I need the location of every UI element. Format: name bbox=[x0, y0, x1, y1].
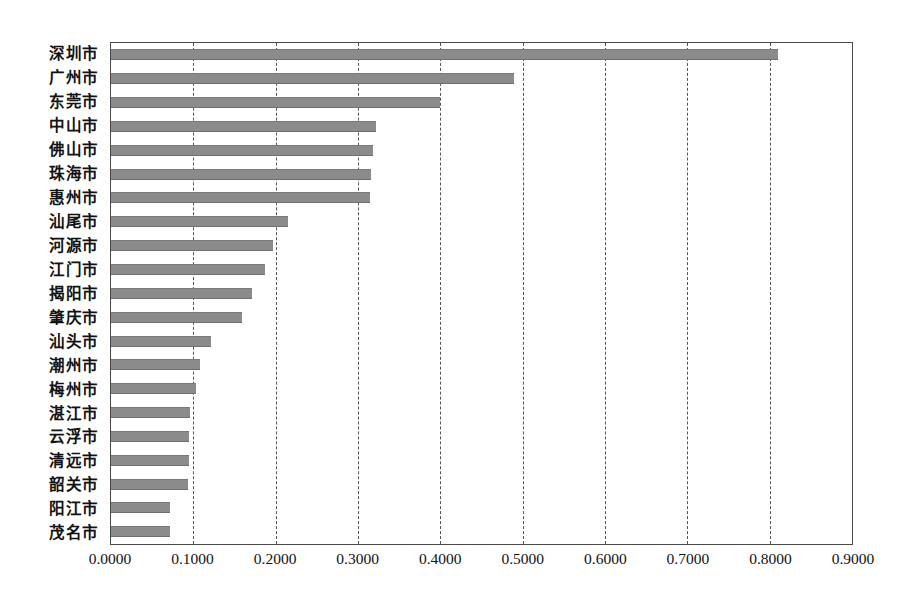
bar-row bbox=[111, 383, 852, 394]
bar-chart: 深圳市广州市东莞市中山市佛山市珠海市惠州市汕尾市河源市江门市揭阳市肇庆市汕头市潮… bbox=[0, 0, 906, 607]
bar[interactable] bbox=[111, 431, 189, 442]
value-tick-label: 0.4000 bbox=[419, 548, 462, 570]
plot-area bbox=[110, 42, 853, 545]
category-label: 中山市 bbox=[49, 117, 98, 134]
category-label: 河源市 bbox=[49, 237, 98, 254]
category-label: 湛江市 bbox=[49, 405, 98, 422]
bar-row bbox=[111, 97, 852, 108]
bar[interactable] bbox=[111, 383, 196, 394]
bar-row bbox=[111, 169, 852, 180]
bar[interactable] bbox=[111, 240, 273, 251]
value-tick-label: 0.3000 bbox=[336, 548, 379, 570]
bar[interactable] bbox=[111, 169, 371, 180]
bar[interactable] bbox=[111, 145, 373, 156]
bar[interactable] bbox=[111, 359, 200, 370]
category-label: 潮州市 bbox=[49, 357, 98, 374]
bar-row bbox=[111, 121, 852, 132]
bar-row bbox=[111, 502, 852, 513]
category-label: 阳江市 bbox=[49, 500, 98, 517]
bar-row bbox=[111, 49, 852, 60]
value-tick-label: 0.5000 bbox=[501, 548, 544, 570]
bar-row bbox=[111, 264, 852, 275]
category-label: 汕头市 bbox=[49, 333, 98, 350]
category-axis: 深圳市广州市东莞市中山市佛山市珠海市惠州市汕尾市河源市江门市揭阳市肇庆市汕头市潮… bbox=[0, 42, 104, 545]
bar[interactable] bbox=[111, 455, 189, 466]
bar-row bbox=[111, 407, 852, 418]
bar-row bbox=[111, 336, 852, 347]
category-label: 广州市 bbox=[49, 69, 98, 86]
category-label: 云浮市 bbox=[49, 428, 98, 445]
bar-row bbox=[111, 145, 852, 156]
category-label: 东莞市 bbox=[49, 93, 98, 110]
bar[interactable] bbox=[111, 264, 265, 275]
category-label: 肇庆市 bbox=[49, 309, 98, 326]
category-label: 茂名市 bbox=[49, 524, 98, 541]
category-label: 清远市 bbox=[49, 452, 98, 469]
bar[interactable] bbox=[111, 97, 440, 108]
bar-row bbox=[111, 479, 852, 490]
value-tick-label: 0.2000 bbox=[254, 548, 297, 570]
category-label: 深圳市 bbox=[49, 45, 98, 62]
bar[interactable] bbox=[111, 336, 211, 347]
bar[interactable] bbox=[111, 121, 376, 132]
bar[interactable] bbox=[111, 407, 190, 418]
bar[interactable] bbox=[111, 73, 514, 84]
category-label: 汕尾市 bbox=[49, 213, 98, 230]
value-tick-label: 0.1000 bbox=[171, 548, 214, 570]
value-tick-label: 0.9000 bbox=[832, 548, 875, 570]
bar-series bbox=[111, 43, 852, 544]
bar-row bbox=[111, 73, 852, 84]
value-tick-label: 0.7000 bbox=[667, 548, 710, 570]
bar[interactable] bbox=[111, 49, 778, 60]
bar-row bbox=[111, 312, 852, 323]
value-tick-label: 0.0000 bbox=[89, 548, 132, 570]
category-label: 江门市 bbox=[49, 261, 98, 278]
bar-row bbox=[111, 526, 852, 537]
bar[interactable] bbox=[111, 479, 188, 490]
bar-row bbox=[111, 288, 852, 299]
bar[interactable] bbox=[111, 502, 170, 513]
bar-row bbox=[111, 216, 852, 227]
bar-row bbox=[111, 359, 852, 370]
category-label: 珠海市 bbox=[49, 165, 98, 182]
category-label: 惠州市 bbox=[49, 189, 98, 206]
bar[interactable] bbox=[111, 216, 288, 227]
bar[interactable] bbox=[111, 312, 242, 323]
category-label: 梅州市 bbox=[49, 381, 98, 398]
bar-row bbox=[111, 240, 852, 251]
value-tick-label: 0.6000 bbox=[584, 548, 627, 570]
bar[interactable] bbox=[111, 526, 170, 537]
bar[interactable] bbox=[111, 192, 370, 203]
bar[interactable] bbox=[111, 288, 252, 299]
value-tick-label: 0.8000 bbox=[749, 548, 792, 570]
bar-row bbox=[111, 431, 852, 442]
bar-row bbox=[111, 455, 852, 466]
category-label: 佛山市 bbox=[49, 141, 98, 158]
category-label: 揭阳市 bbox=[49, 285, 98, 302]
value-axis: 0.00000.10000.20000.30000.40000.50000.60… bbox=[110, 548, 853, 578]
category-label: 韶关市 bbox=[49, 476, 98, 493]
bar-row bbox=[111, 192, 852, 203]
